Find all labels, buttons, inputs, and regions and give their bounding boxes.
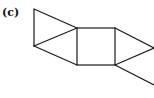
right-triangle-top	[115, 28, 154, 48]
right-extending-line	[115, 65, 154, 85]
center-square	[77, 28, 115, 65]
left-triangle-diagonal	[34, 28, 77, 46]
geometric-figure	[0, 0, 154, 98]
right-triangle-bottom	[115, 48, 154, 65]
left-triangle-top	[34, 9, 77, 28]
left-lower-edge	[34, 46, 77, 65]
